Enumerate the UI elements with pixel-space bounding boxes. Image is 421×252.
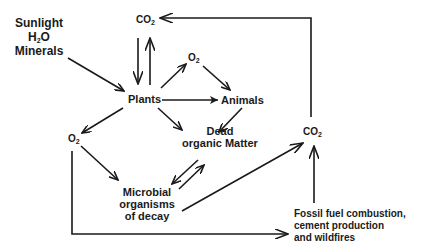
dead-line1: Dead (170, 125, 270, 137)
microbial-line1: Microbial (112, 186, 182, 198)
carbon-cycle-diagram: Sunlight H2O Minerals CO2 O2 Plants Anim… (0, 0, 421, 252)
fossil-line1: Fossil fuel combustion, (294, 208, 406, 220)
co2-right-label: CO2 (303, 126, 322, 138)
animals-label: Animals (221, 94, 264, 106)
minerals-label: Minerals (8, 44, 70, 58)
arrow-dead-to-microbial (172, 160, 198, 184)
o2-upper-label: O2 (188, 52, 200, 64)
arrow-o2-left-to-microbial (81, 146, 118, 180)
microbial-organisms-label: Microbial organisms of decay (112, 186, 182, 222)
fossil-fuel-label: Fossil fuel combustion, cement productio… (294, 208, 406, 244)
microbial-line3: of decay (112, 210, 182, 222)
arrow-microbial-to-co2-right (182, 143, 303, 211)
arrow-plants-to-o2-left (82, 108, 123, 133)
dead-line2: organic Matter (170, 137, 270, 149)
dead-organic-matter-label: Dead organic Matter (170, 125, 270, 149)
o2-left-label: O2 (68, 133, 80, 145)
water-label: H2O (8, 30, 70, 44)
sunlight-label: Sunlight (8, 16, 70, 30)
arrow-microbial-to-dead (179, 165, 204, 189)
fossil-line2: cement production (294, 220, 406, 232)
plants-label: Plants (128, 93, 161, 105)
co2-top-label: CO2 (136, 14, 155, 26)
arrow-o2-to-animals (203, 66, 230, 90)
fossil-line3: and wildfires (294, 232, 406, 244)
microbial-line2: organisms (112, 198, 182, 210)
arrow-inputs-to-plants (68, 58, 124, 91)
arrow-plants-to-o2 (161, 64, 186, 88)
inputs-label: Sunlight H2O Minerals (8, 16, 70, 58)
